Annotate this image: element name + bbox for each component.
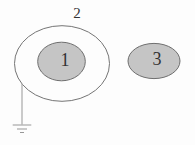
label-region-1: 1 (61, 50, 70, 70)
label-region-3: 3 (153, 49, 162, 69)
diagram-canvas: 2 1 3 (0, 0, 195, 145)
euler-diagram: 2 1 3 (0, 0, 195, 145)
label-region-2: 2 (73, 5, 81, 21)
